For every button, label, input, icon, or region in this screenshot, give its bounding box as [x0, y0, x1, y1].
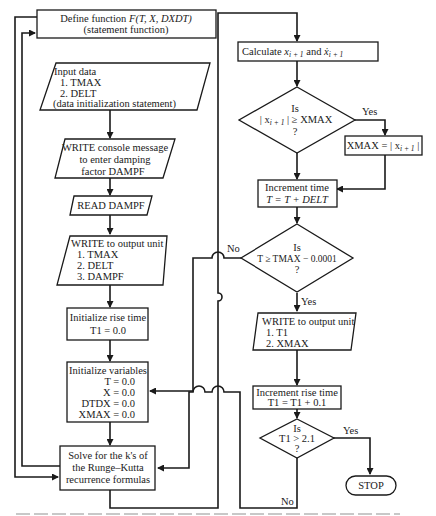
decision-tmax: Is T ≥ TMAX − 0.0001 ?	[241, 224, 353, 292]
svg-text:Increment time: Increment time	[265, 182, 329, 193]
label-yes-tmax: Yes	[301, 296, 316, 307]
label-no-t1: No	[281, 496, 294, 507]
svg-text:2. XMAX: 2. XMAX	[266, 338, 309, 349]
edge-setxmax-to-inctime	[337, 155, 385, 189]
edge-decision3-yes	[333, 438, 370, 474]
write-output-box-2: WRITE to output unit 1. T1 2. XMAX	[253, 313, 356, 350]
svg-text:3. DAMPF: 3. DAMPF	[77, 271, 124, 282]
svg-text:2. DELT: 2. DELT	[77, 260, 114, 271]
svg-text:T ≥ TMAX − 0.0001: T ≥ TMAX − 0.0001	[257, 254, 337, 264]
svg-text:X = 0.0: X = 0.0	[103, 387, 135, 398]
label-yes-t1: Yes	[343, 425, 358, 436]
decision-xmax: Is | xi + 1 | ≥ XMAX ?	[239, 87, 355, 153]
calculate-box: Calculate xi + 1 and ẋi + 1	[238, 42, 378, 61]
increment-time-box: Increment time T = T + DELT	[258, 180, 337, 207]
init-rise-time-box: Initialize rise time T1 = 0.0	[67, 308, 148, 340]
svg-text:to enter damping: to enter damping	[79, 154, 151, 165]
svg-text:the Runge–Kutta: the Runge–Kutta	[72, 462, 144, 473]
input-data-box: Input data 1. TMAX 2. DELT (data initial…	[40, 63, 210, 110]
svg-text:?: ?	[295, 443, 300, 454]
svg-text:WRITE to output unit: WRITE to output unit	[71, 238, 164, 249]
set-xmax-box: XMAX = | xi + 1 |	[345, 136, 422, 155]
svg-text:XMAX = 0.0: XMAX = 0.0	[79, 409, 135, 420]
svg-text:Initialize variables: Initialize variables	[69, 365, 147, 376]
svg-text:T1 = T1 + 0.1: T1 = T1 + 0.1	[268, 397, 327, 408]
svg-text:READ DAMPF: READ DAMPF	[77, 200, 145, 211]
init-variables-box: Initialize variables T = 0.0 X = 0.0 DTD…	[67, 362, 148, 422]
svg-text:T = T + DELT: T = T + DELT	[266, 194, 329, 205]
svg-text:(data initialization statement: (data initialization statement)	[53, 98, 177, 110]
flowchart: Define function F(T, X, DXDT) (statement…	[0, 0, 436, 516]
read-dampf-box: READ DAMPF	[70, 196, 152, 215]
label-yes-xmax: Yes	[362, 106, 377, 117]
edge-decision1-yes	[355, 120, 385, 135]
svg-text:Initialize rise time: Initialize rise time	[70, 312, 147, 323]
svg-text:recurrence formulas: recurrence formulas	[66, 474, 150, 485]
svg-text:?: ?	[295, 264, 300, 275]
write-output-box-1: WRITE to output unit 1. TMAX 2. DELT 3. …	[57, 236, 167, 285]
svg-text:WRITE to output unit: WRITE to output unit	[262, 316, 355, 327]
decision-t1: Is T1 > 2.1 ?	[260, 419, 334, 458]
svg-text:(statement function): (statement function)	[84, 24, 169, 36]
svg-text:1. T1: 1. T1	[266, 327, 288, 338]
svg-text:DTDX = 0.0: DTDX = 0.0	[82, 398, 135, 409]
svg-text:Is: Is	[291, 103, 299, 114]
label-no-tmax: No	[227, 243, 240, 254]
svg-text:WRITE console message: WRITE console message	[62, 142, 168, 153]
svg-text:Solve for the k's of: Solve for the k's of	[68, 450, 148, 461]
svg-text:Is: Is	[293, 242, 301, 253]
svg-text:Input data: Input data	[54, 66, 97, 77]
svg-text:factor DAMPF: factor DAMPF	[81, 166, 144, 177]
svg-text:?: ?	[293, 126, 298, 137]
svg-text:STOP: STOP	[358, 480, 384, 491]
svg-text:T = 0.0: T = 0.0	[104, 376, 135, 387]
increment-rise-time-box: Increment rise time T1 = T1 + 0.1	[253, 386, 341, 409]
solve-k-box: Solve for the k's of the Runge–Kutta rec…	[60, 446, 155, 490]
define-function-box: Define function F(T, X, DXDT) (statement…	[37, 10, 216, 38]
write-console-box: WRITE console message to enter damping f…	[55, 139, 175, 178]
svg-text:1. TMAX: 1. TMAX	[60, 77, 102, 88]
svg-text:T1 = 0.0: T1 = 0.0	[90, 325, 126, 336]
svg-text:1. TMAX: 1. TMAX	[77, 249, 119, 260]
stop-terminal: STOP	[346, 476, 396, 495]
